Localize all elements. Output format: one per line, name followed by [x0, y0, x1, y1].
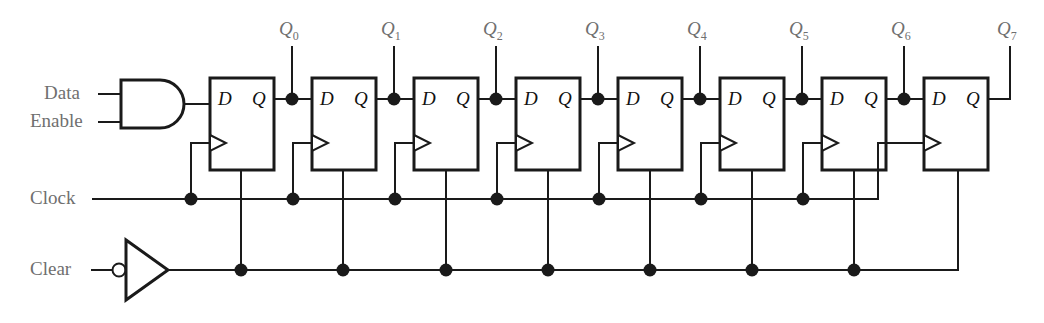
ff2-d-port: D: [422, 88, 436, 110]
ff7-d-port: D: [932, 88, 946, 110]
clear-input-label: Clear: [30, 258, 71, 280]
q3-output-label: Q3: [585, 18, 605, 44]
ff2-q-port: Q: [456, 88, 470, 110]
schematic-canvas: [0, 0, 1044, 323]
ff5-d-port: D: [728, 88, 742, 110]
clock-input-label: Clock: [30, 187, 75, 209]
and-gate: [121, 80, 184, 128]
ff0-q-port: Q: [252, 88, 266, 110]
clock-feed-5: [701, 143, 720, 199]
clock-feed-6: [803, 143, 822, 199]
q5-output-label: Q5: [789, 18, 809, 44]
clock-feed-3: [497, 143, 516, 199]
ff6-d-port: D: [830, 88, 844, 110]
ff6-q-port: Q: [864, 88, 878, 110]
ff4-d-port: D: [626, 88, 640, 110]
q1-output-label: Q1: [381, 18, 401, 44]
inverter-bubble-icon: [113, 264, 126, 277]
enable-input-label: Enable: [30, 110, 83, 132]
q7-output-label: Q7: [997, 18, 1017, 44]
clock-feed-1: [293, 143, 312, 199]
ff7-q-port: Q: [966, 88, 980, 110]
q2-output-label: Q2: [483, 18, 503, 44]
ff3-q-port: Q: [558, 88, 572, 110]
q4-output-label: Q4: [687, 18, 707, 44]
ff1-d-port: D: [320, 88, 334, 110]
ff4-q-port: Q: [660, 88, 674, 110]
ff0-d-port: D: [218, 88, 232, 110]
q6-output-label: Q6: [891, 18, 911, 44]
q7-tap-wire: [988, 47, 1010, 99]
clock-feed-2: [395, 143, 414, 199]
circuit-diagram: D Q D Q D Q D Q D Q D Q D Q D Q Data Ena…: [0, 0, 1044, 323]
clock-feed-0: [191, 143, 210, 199]
data-input-label: Data: [44, 82, 80, 104]
clock-feed-4: [599, 143, 618, 199]
ff1-q-port: Q: [354, 88, 368, 110]
ff3-d-port: D: [524, 88, 538, 110]
q0-output-label: Q0: [279, 18, 299, 44]
ff5-q-port: Q: [762, 88, 776, 110]
clear-inverter: [126, 240, 168, 300]
